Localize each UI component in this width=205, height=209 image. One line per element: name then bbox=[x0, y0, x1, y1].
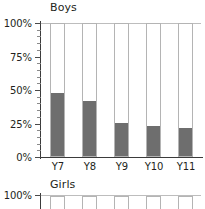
bar-outline-y11 bbox=[178, 23, 193, 157]
bar-fill-y8 bbox=[83, 101, 96, 156]
bar-fill-y10 bbox=[147, 126, 160, 156]
boys-ytick-minor bbox=[37, 110, 41, 111]
boys-ylabel-0: 0% bbox=[16, 152, 32, 163]
boys-ytick-minor bbox=[37, 70, 41, 71]
bar-outline-y7 bbox=[50, 23, 65, 157]
boys-chart-title: Boys bbox=[50, 1, 77, 14]
boys-xlabel-y7: Y7 bbox=[52, 161, 64, 172]
girls-bar-y9[interactable] bbox=[114, 196, 129, 209]
girls-bar-y10[interactable] bbox=[146, 196, 161, 209]
boys-ytick-minor bbox=[37, 30, 41, 31]
girls-bar-y11[interactable] bbox=[178, 196, 193, 209]
girls-ylabel-100: 100% bbox=[4, 190, 32, 201]
bar-fill-y9 bbox=[115, 123, 128, 156]
boys-ylabel-100: 100% bbox=[4, 18, 32, 29]
stacked-bar-chart-figure: Boys 100% 75% 50% 25% 0% bbox=[0, 0, 205, 209]
bar-group-y10[interactable] bbox=[146, 23, 161, 157]
bar-group-y9[interactable] bbox=[114, 23, 129, 157]
boys-ytick-100 bbox=[35, 23, 41, 24]
boys-chart-panel: Boys 100% 75% 50% 25% 0% bbox=[0, 0, 205, 178]
bar-group-y8[interactable] bbox=[82, 23, 97, 157]
boys-ytick-0 bbox=[35, 157, 41, 158]
bar-fill-y11 bbox=[179, 128, 192, 156]
boys-ylabel-25: 25% bbox=[10, 119, 32, 130]
girls-bar-y8[interactable] bbox=[82, 196, 97, 209]
boys-xlabel-y10: Y10 bbox=[145, 161, 164, 172]
boys-ytick-minor bbox=[37, 97, 41, 98]
boys-ytick-25 bbox=[35, 124, 41, 125]
boys-ytick-75 bbox=[35, 57, 41, 58]
boys-ylabel-50: 50% bbox=[10, 85, 32, 96]
bar-outline-y9 bbox=[114, 23, 129, 157]
boys-ytick-minor bbox=[37, 144, 41, 145]
boys-ytick-minor bbox=[37, 103, 41, 104]
boys-ytick-minor bbox=[37, 36, 41, 37]
boys-xlabel-y9: Y9 bbox=[116, 161, 128, 172]
bar-outline-y8 bbox=[82, 23, 97, 157]
bar-group-y7[interactable] bbox=[50, 23, 65, 157]
boys-ytick-50 bbox=[35, 90, 41, 91]
girls-bar-y7[interactable] bbox=[50, 196, 65, 209]
boys-ytick-minor bbox=[37, 150, 41, 151]
boys-xlabel-y8: Y8 bbox=[84, 161, 96, 172]
boys-ytick-minor bbox=[37, 50, 41, 51]
boys-x-axis-line bbox=[40, 157, 203, 158]
bar-group-y11[interactable] bbox=[178, 23, 193, 157]
boys-ytick-minor bbox=[37, 130, 41, 131]
boys-ytick-minor bbox=[37, 77, 41, 78]
boys-ylabel-75: 75% bbox=[10, 52, 32, 63]
boys-ytick-minor bbox=[37, 117, 41, 118]
girls-chart-title: Girls bbox=[50, 178, 75, 191]
boys-ytick-minor bbox=[37, 43, 41, 44]
boys-xlabel-y11: Y11 bbox=[177, 161, 196, 172]
boys-ytick-minor bbox=[37, 63, 41, 64]
bar-outline-y10 bbox=[146, 23, 161, 157]
bar-fill-y7 bbox=[51, 93, 64, 156]
boys-ytick-minor bbox=[37, 83, 41, 84]
girls-chart-panel: Girls 100% bbox=[0, 178, 205, 209]
boys-ytick-minor bbox=[37, 137, 41, 138]
girls-ytick-100 bbox=[35, 195, 41, 196]
